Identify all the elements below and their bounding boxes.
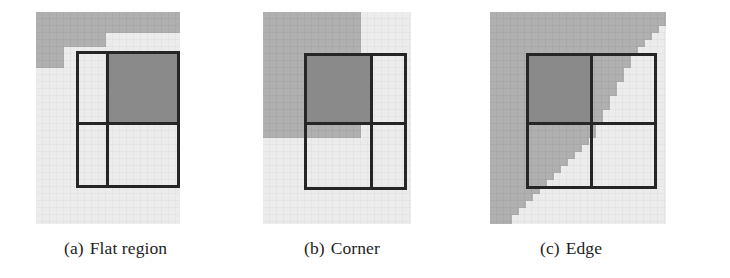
panel-edge bbox=[490, 12, 666, 224]
highlighted-quadrant-c bbox=[527, 54, 591, 123]
caption-tag-c: (c) bbox=[540, 238, 560, 258]
panel-row bbox=[0, 0, 730, 232]
panel-b-image bbox=[263, 12, 411, 224]
caption-panel-a: (a)Flat region bbox=[64, 238, 167, 259]
caption-label-b: Corner bbox=[331, 238, 380, 258]
panel-c-image bbox=[490, 12, 666, 224]
panel-corner bbox=[263, 12, 411, 224]
caption-tag-b: (b) bbox=[304, 238, 325, 258]
panel-a-image bbox=[36, 12, 180, 224]
caption-tag-a: (a) bbox=[64, 238, 84, 258]
caption-panel-b: (b)Corner bbox=[304, 238, 380, 259]
caption-row: (a)Flat region (b)Corner (c)Edge bbox=[0, 232, 730, 278]
caption-panel-c: (c)Edge bbox=[540, 238, 602, 259]
highlighted-quadrant-a bbox=[107, 52, 178, 123]
panel-flat-region bbox=[36, 12, 180, 224]
figure-root: (a)Flat region (b)Corner (c)Edge bbox=[0, 0, 730, 278]
caption-label-c: Edge bbox=[566, 238, 602, 258]
highlighted-quadrant-b bbox=[305, 54, 371, 123]
caption-label-a: Flat region bbox=[90, 238, 167, 258]
